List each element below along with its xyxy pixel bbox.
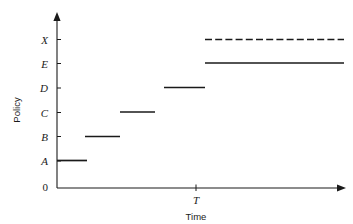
x-tick-label-t: T (193, 194, 200, 206)
y-tick-marks (57, 40, 61, 162)
x-axis-label: Time (186, 211, 207, 222)
y-tick-label-e: E (40, 58, 48, 70)
y-tick-label-b: B (41, 131, 48, 143)
y-tick-label-x: X (40, 34, 49, 46)
y-tick-labels: X E D C B A 0 (39, 34, 49, 194)
x-axis-arrow-icon (337, 184, 346, 191)
y-tick-label-a: A (40, 155, 48, 167)
y-tick-label-c: C (41, 107, 49, 119)
y-axis-label: Policy (11, 97, 22, 123)
chart-figure: X E D C B A 0 T Policy Time (0, 0, 353, 224)
y-tick-label-origin: 0 (43, 181, 49, 193)
y-axis-arrow-icon (53, 12, 60, 21)
policy-time-step-chart: X E D C B A 0 T Policy Time (0, 0, 353, 224)
y-tick-label-d: D (39, 82, 48, 94)
policy-step-series (57, 63, 344, 161)
